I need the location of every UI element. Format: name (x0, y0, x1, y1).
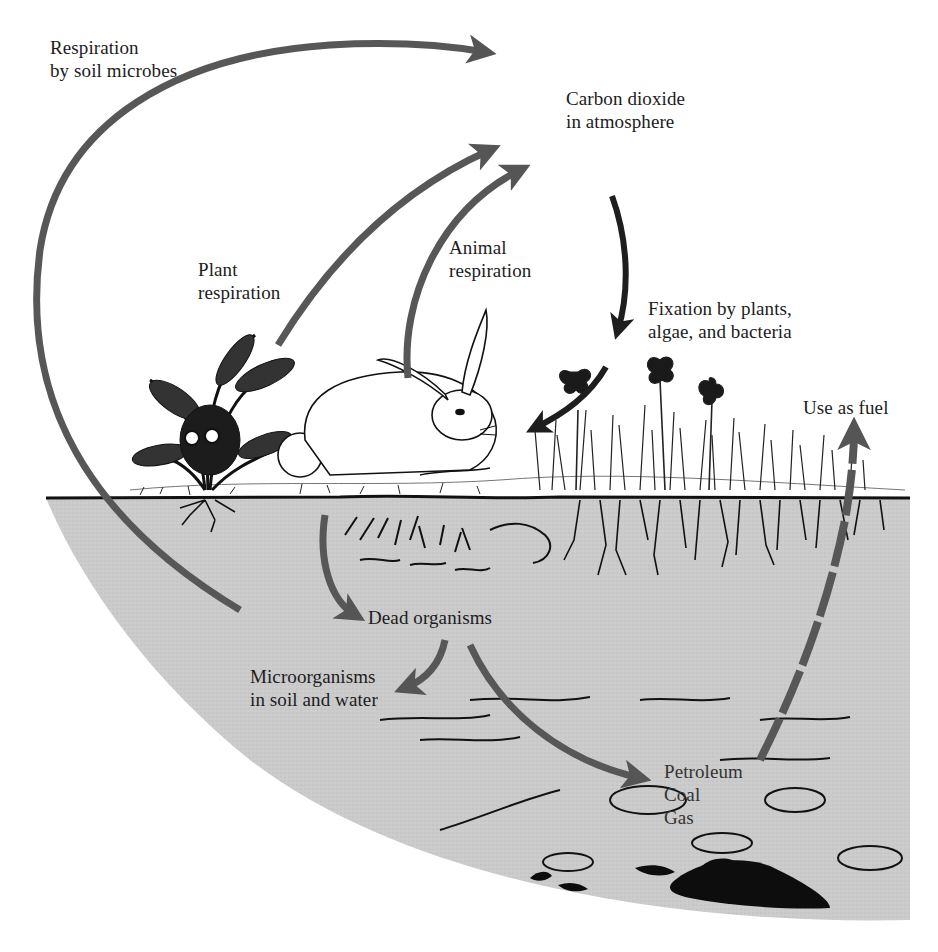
label-line: Petroleum (664, 760, 743, 783)
diagram-artwork (0, 0, 938, 952)
label-line: algae, and bacteria (648, 320, 792, 343)
label-fixation: Fixation by plants, algae, and bacteria (648, 297, 792, 343)
label-line: Carbon dioxide (566, 87, 685, 110)
ground-surface (130, 476, 905, 495)
label-line: Microorganisms (250, 665, 378, 688)
rabbit-illustration (278, 310, 496, 477)
label-microorganisms: Microorganisms in soil and water (250, 665, 378, 711)
label-animal-respiration: Animal respiration (449, 236, 531, 282)
carbon-cycle-diagram: Respiration by soil microbes Carbon diox… (0, 0, 938, 952)
label-carbon-dioxide: Carbon dioxide in atmosphere (566, 87, 685, 133)
label-line: Dead organisms (368, 606, 492, 629)
fern-illustration (131, 330, 299, 490)
label-dead-organisms: Dead organisms (368, 606, 492, 629)
label-line: by soil microbes (50, 59, 177, 82)
grass-flowers-illustration (535, 357, 865, 490)
label-line: in soil and water (250, 688, 378, 711)
label-line: Animal (449, 236, 531, 259)
label-line: Gas (664, 806, 743, 829)
label-line: Respiration (50, 36, 177, 59)
label-line: Use as fuel (803, 396, 889, 419)
label-line: in atmosphere (566, 110, 685, 133)
label-plant-respiration: Plant respiration (198, 258, 280, 304)
label-respiration-soil-microbes: Respiration by soil microbes (50, 36, 177, 82)
label-use-as-fuel: Use as fuel (803, 396, 889, 419)
label-line: Plant (198, 258, 280, 281)
label-line: Coal (664, 783, 743, 806)
label-line: Fixation by plants, (648, 297, 792, 320)
label-line: respiration (449, 259, 531, 282)
label-fossil-fuels: Petroleum Coal Gas (664, 760, 743, 829)
label-line: respiration (198, 281, 280, 304)
arrow-fixation-down (612, 196, 626, 330)
